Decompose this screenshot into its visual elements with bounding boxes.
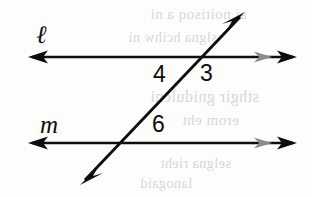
line-transversal-end-arrowhead-icon [222,12,245,30]
line-label-m: m [40,112,58,137]
line-label-l: ℓ [36,22,46,47]
angle-label-6: 6 [152,113,165,136]
line-transversal [80,12,245,185]
geometry-figure: ai noitisoq a ni slgna hcihw ni sthgir g… [0,0,312,197]
line-transversal-start-arrowhead-icon [80,167,103,185]
geometry-drawing [0,0,312,197]
line-transversal-segment [85,17,240,180]
angle-label-4: 4 [153,63,166,86]
angle-label-3: 3 [200,62,213,85]
line-m [28,137,297,150]
